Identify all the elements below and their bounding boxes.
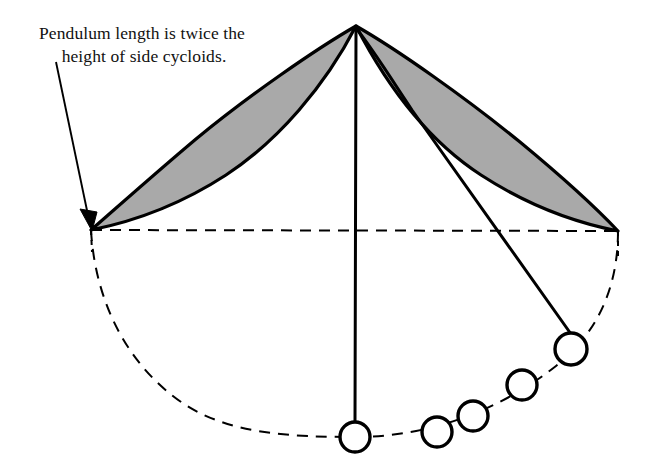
bob-3: [458, 401, 488, 431]
bob-1: [340, 422, 370, 452]
pendulum-rod-vertical: [355, 28, 356, 423]
annotation-text: Pendulum length is twice the height of s…: [8, 22, 276, 68]
left-cusp-tick: [91, 230, 92, 252]
annotation-arrow: [56, 62, 97, 231]
annotation-line-2: height of side cycloids.: [8, 45, 276, 68]
cycloidal-pendulum-diagram: [0, 0, 655, 472]
bob-5: [555, 333, 587, 365]
figure-root: Pendulum length is twice the height of s…: [0, 0, 655, 472]
bob-2: [422, 417, 452, 447]
annotation-arrow-shaft: [56, 62, 89, 220]
bob-4: [507, 370, 537, 400]
annotation-line-1: Pendulum length is twice the: [8, 22, 276, 45]
pendulum-bobs: [340, 333, 587, 452]
right-cycloid-cheek-shape: [356, 26, 618, 231]
